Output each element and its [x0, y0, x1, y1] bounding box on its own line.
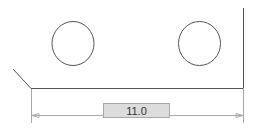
part-outline [13, 8, 244, 89]
hole-left[interactable] [52, 22, 94, 66]
dimension-value-input[interactable] [103, 103, 170, 118]
chamfer-edge [13, 69, 31, 89]
hole-right[interactable] [179, 22, 221, 66]
